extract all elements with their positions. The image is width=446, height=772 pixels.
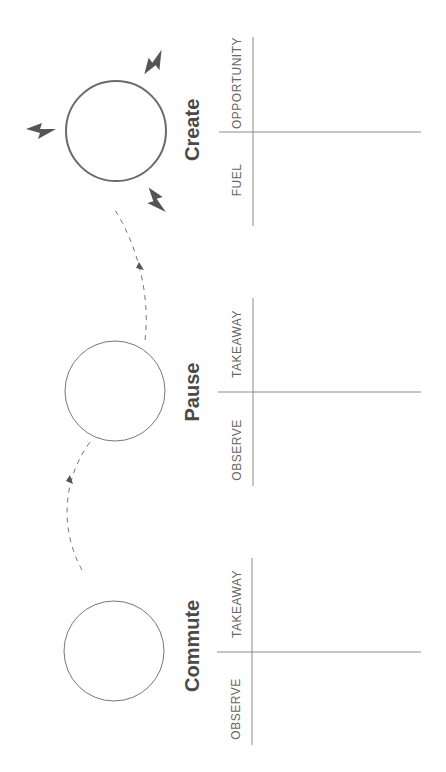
flow-arrow-pause-to-create — [115, 210, 146, 340]
stage-title-commute: Commute — [180, 612, 204, 692]
lightning-bolt-icon — [139, 46, 169, 80]
commute-circle — [64, 601, 164, 701]
diagram-canvas — [0, 0, 446, 772]
quad-label-opportunity: OPPORTUNITY — [230, 33, 244, 133]
pause-circle — [65, 341, 165, 441]
quad-label-fuel: FUEL — [230, 150, 244, 210]
quad-label-observe: OBSERVE — [230, 410, 244, 490]
create-circle — [66, 81, 166, 181]
arrowhead-icon — [136, 262, 144, 270]
stage-title-create: Create — [180, 101, 204, 161]
flow-arrow-commute-to-pause — [67, 442, 90, 570]
quad-label-takeaway: TAKEAWAY — [230, 564, 244, 644]
quad-label-observe: OBSERVE — [229, 669, 243, 749]
lightning-bolt-icon — [140, 184, 170, 218]
stage-title-pause: Pause — [180, 362, 204, 422]
quad-label-takeaway: TAKEAWAY — [230, 304, 244, 384]
lightning-bolt-icon — [26, 123, 56, 139]
